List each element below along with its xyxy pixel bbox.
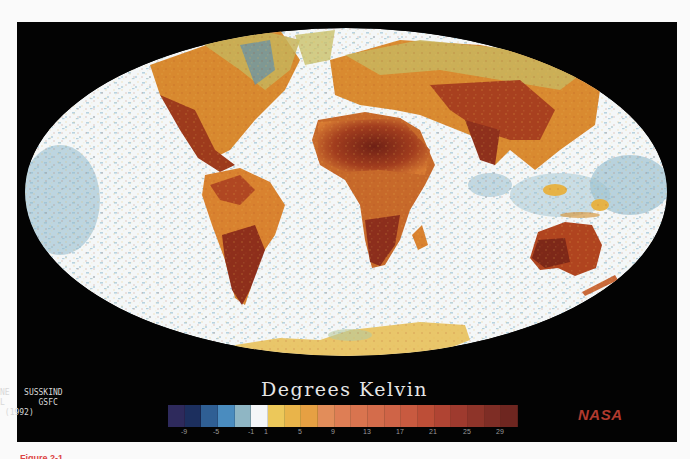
tick-label: 13 (363, 428, 371, 435)
swatch (285, 405, 302, 427)
swatch (435, 405, 452, 427)
tick-label: 25 (463, 428, 471, 435)
swatch (268, 405, 285, 427)
swatch (468, 405, 485, 427)
tick-label: 21 (429, 428, 437, 435)
swatch (351, 405, 368, 427)
swatch (418, 405, 435, 427)
swatch (318, 405, 335, 427)
tick-label: 1 (264, 428, 268, 435)
swatch (235, 405, 252, 427)
swatch (401, 405, 418, 427)
credit-text: NE SUSSKINDL GSFC (1992) (0, 388, 63, 418)
swatch (251, 405, 268, 427)
colorbar-ticks: -9 -5 -1 1 5 9 13 17 21 25 29 (0, 428, 690, 438)
tick-label: -1 (248, 428, 254, 435)
swatch (501, 405, 518, 427)
legend-title: Degrees Kelvin (261, 378, 428, 400)
swatch (218, 405, 235, 427)
figure-caption: Figure 2-1 (20, 452, 63, 459)
swatch (368, 405, 385, 427)
tick-label: -5 (213, 428, 219, 435)
swatch (168, 405, 185, 427)
tick-label: 17 (396, 428, 404, 435)
globe (20, 28, 670, 362)
swatch (185, 405, 202, 427)
tick-label: 5 (298, 428, 302, 435)
colorbar (168, 405, 518, 427)
swatch (335, 405, 352, 427)
tick-label: -9 (181, 428, 187, 435)
swatch (301, 405, 318, 427)
swatch (485, 405, 502, 427)
swatch (385, 405, 402, 427)
swatch (201, 405, 218, 427)
nasa-logo: NASA (578, 406, 623, 423)
tick-label: 9 (331, 428, 335, 435)
swatch (451, 405, 468, 427)
tick-label: 29 (496, 428, 504, 435)
